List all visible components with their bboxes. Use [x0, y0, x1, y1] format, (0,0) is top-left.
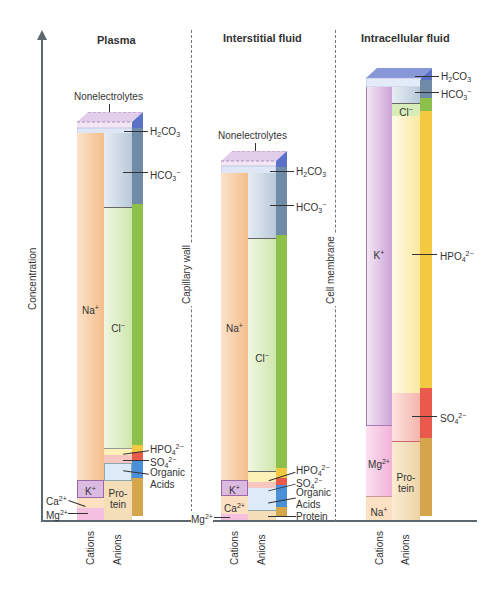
intracellular-title: Intracellular fluid	[361, 32, 450, 44]
interstitial-hco3-leader	[270, 205, 294, 206]
interstitial-hpo4-segment	[248, 472, 276, 482]
plasma-nonelectrolytes-label: Nonelectrolytes	[74, 91, 143, 102]
interstitial-ca-label: Ca2+	[221, 500, 248, 514]
intracellular-protein-label: Pro-tein	[392, 472, 420, 494]
interstitial-hco3-label: HCO3−	[296, 199, 326, 216]
y-axis-label: Concentration	[27, 248, 38, 310]
intracellular-anions-xlabel: Anions	[400, 534, 411, 565]
interstitial-organic-label: Organic	[296, 487, 331, 498]
intracellular-so4-leader	[412, 416, 437, 417]
plasma-organic-label: Organic	[150, 467, 185, 478]
plasma-ca-segment	[77, 498, 104, 508]
plasma-protein-label: Pro-tein	[104, 488, 132, 510]
interstitial-title: Interstitial fluid	[223, 32, 302, 44]
plasma-cations-xlabel: Cations	[85, 531, 96, 565]
plasma-organic-acids-segment	[104, 463, 132, 481]
plasma-mg-label: Mg2+	[46, 507, 68, 521]
plasma-hco3-leader	[123, 172, 148, 173]
y-axis-line	[41, 36, 43, 522]
plasma-mg-segment	[77, 508, 104, 520]
plasma-acids-label: Acids	[150, 479, 174, 490]
interstitial-hco3-side	[276, 167, 287, 235]
plasma-organic-acids-side	[132, 460, 143, 478]
intracellular-mg-label: Mg2+	[366, 456, 392, 470]
intracellular-cations-xlabel: Cations	[374, 531, 385, 565]
plasma-cl-side	[132, 204, 143, 445]
plasma-hco3-label: HCO3−	[150, 167, 180, 184]
interstitial-protein-label: Protein	[296, 511, 328, 522]
intracellular-so4-side	[420, 388, 432, 438]
intracellular-h2co3-label: H2CO3	[441, 71, 471, 85]
interstitial-k-label: K+	[222, 482, 247, 496]
interstitial-cations-xlabel: Cations	[229, 531, 240, 565]
plasma-protein-side	[132, 478, 143, 516]
intracellular-so4-label: SO42−	[440, 410, 466, 427]
intracellular-hpo4-side	[420, 111, 432, 388]
interstitial-h2co3-label: H2CO3	[296, 166, 326, 180]
interstitial-anions-xlabel: Anions	[256, 534, 267, 565]
intracellular-hpo4-label: HPO42−	[440, 248, 474, 265]
interstitial-organic-acids-segment	[248, 488, 276, 511]
plasma-na-label: Na+	[78, 302, 103, 316]
x-axis-line	[41, 520, 477, 522]
plasma-ca-label: Ca2+	[46, 493, 67, 507]
intracellular-hco3-segment	[392, 87, 420, 103]
intracellular-h2co3-leader	[415, 76, 439, 77]
interstitial-h2co3-leader	[270, 171, 294, 172]
interstitial-so4-side	[276, 478, 287, 485]
interstitial-cl-label: Cl−	[248, 350, 276, 364]
cell-membrane-label: Cell membrane	[325, 234, 336, 306]
intracellular-hco3-side	[420, 80, 432, 98]
plasma-hco3-segment	[104, 133, 132, 207]
y-axis-arrow-icon	[37, 30, 47, 40]
interstitial-nonelectrolytes-label: Nonelectrolytes	[218, 130, 287, 141]
intracellular-cl-side	[420, 98, 432, 111]
interstitial-na-label: Na+	[222, 320, 247, 334]
capillary-wall-label: Capillary wall	[181, 243, 192, 306]
intracellular-na-label: Na+	[366, 504, 392, 518]
plasma-so4-segment	[104, 455, 132, 463]
interstitial-mg-label: Mg2+	[191, 511, 213, 525]
plasma-mg-leader	[68, 513, 88, 514]
interstitial-acids-label: Acids	[296, 499, 320, 510]
intracellular-hco3-leader	[415, 92, 439, 93]
intracellular-so4-segment	[392, 393, 420, 442]
intracellular-hpo4-leader	[412, 254, 437, 255]
interstitial-mg-leader	[214, 517, 230, 518]
plasma-cl-label: Cl−	[104, 320, 132, 334]
plasma-so4-leader	[123, 460, 149, 461]
plasma-title: Plasma	[97, 34, 136, 46]
intracellular-hco3-label: HCO3−	[441, 86, 471, 103]
plasma-h2co3-leader	[124, 131, 148, 132]
intracellular-protein-side	[420, 438, 432, 516]
plasma-h2co3-label: H2CO3	[150, 126, 180, 140]
plasma-k-label: K+	[78, 483, 103, 497]
plasma-hco3-side	[132, 128, 143, 204]
plasma-anions-xlabel: Anions	[112, 534, 123, 565]
interstitial-protein-leader	[268, 516, 296, 517]
interstitial-cl-side	[276, 235, 287, 468]
intracellular-k-label: K+	[366, 247, 392, 261]
